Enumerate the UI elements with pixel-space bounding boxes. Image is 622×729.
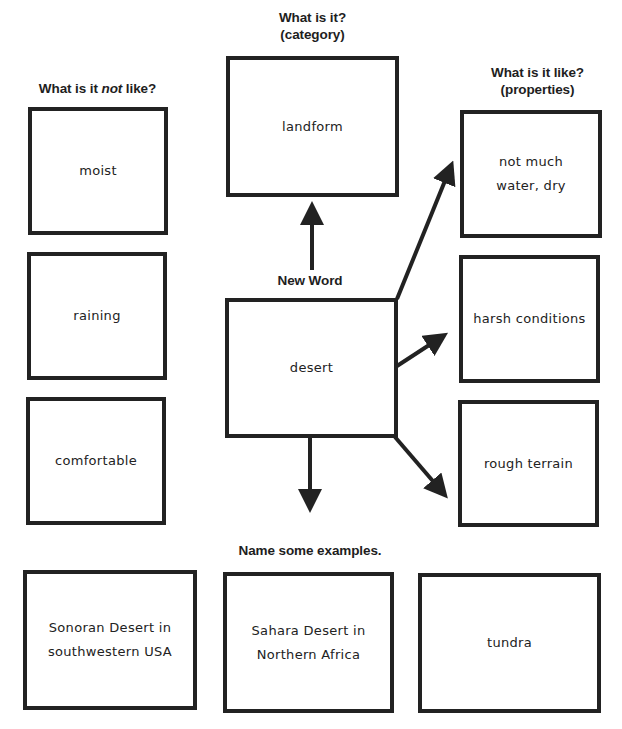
arrow-to-property-1 — [397, 166, 451, 299]
connector-arrows — [0, 0, 622, 729]
arrow-to-property-3 — [395, 437, 444, 494]
arrow-to-property-2 — [397, 336, 443, 366]
